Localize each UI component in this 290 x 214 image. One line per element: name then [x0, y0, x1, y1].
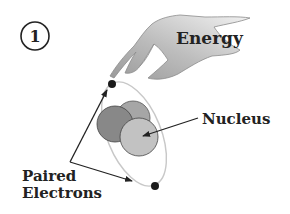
step-number-badge: 1	[21, 22, 49, 50]
electron-top	[108, 80, 116, 88]
nucleus	[97, 101, 158, 156]
paired-electrons-label-line1: Paired	[22, 167, 77, 185]
hand-icon: Energy	[110, 15, 250, 79]
paired-arrow-bottom	[70, 162, 132, 181]
paired-electrons-label-line2: Electrons	[22, 184, 102, 202]
nucleus-label: Nucleus	[202, 110, 270, 128]
step-number: 1	[29, 27, 40, 46]
atom-energy-diagram: 1 Energy Nucleus Paired Electrons	[0, 0, 290, 214]
electron-bottom	[151, 182, 159, 190]
energy-label: Energy	[176, 28, 244, 48]
